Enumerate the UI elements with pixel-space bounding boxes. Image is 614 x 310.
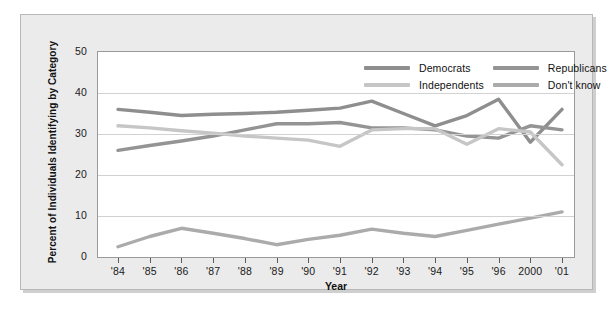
x-tick-mark: [372, 258, 373, 263]
legend-swatch-republicans: [493, 66, 539, 70]
y-tick-label-20: 20: [47, 168, 87, 180]
gridline-40: [98, 93, 574, 94]
x-tick-mark: [150, 258, 151, 263]
x-tick-label-01: '01: [542, 265, 582, 277]
x-tick-mark: [181, 258, 182, 263]
gridline-30: [98, 134, 574, 135]
series-line-democrats: [118, 99, 562, 142]
x-tick-mark: [340, 258, 341, 263]
legend-label-republicans: Republicans: [548, 62, 607, 74]
chart-panel: Percent of Individuals Identifying by Ca…: [20, 14, 593, 290]
x-tick-mark: [403, 258, 404, 263]
series-line-don-t-know: [118, 212, 562, 247]
x-axis-title: Year: [97, 280, 575, 292]
legend-label-independents: Independents: [419, 79, 484, 91]
y-tick-label-0: 0: [47, 250, 87, 262]
legend-swatch-democrats: [364, 66, 410, 70]
plot-area: Democrats Republicans Independents Don't…: [97, 51, 575, 258]
y-axis-title: Percent of Individuals Identifying by Ca…: [47, 37, 58, 267]
y-tick-label-10: 10: [47, 209, 87, 221]
x-tick-mark: [467, 258, 468, 263]
chart-figure: Percent of Individuals Identifying by Ca…: [0, 0, 614, 310]
x-tick-mark: [530, 258, 531, 263]
x-tick-mark: [277, 258, 278, 263]
x-tick-mark: [245, 258, 246, 263]
y-tick-label-50: 50: [47, 45, 87, 57]
x-tick-mark: [213, 258, 214, 263]
x-tick-mark: [499, 258, 500, 263]
series-line-independents: [118, 126, 562, 165]
legend-swatch-dont-know: [493, 83, 539, 87]
y-tick-label-30: 30: [47, 127, 87, 139]
legend-label-dont-know: Don't know: [548, 79, 607, 91]
legend-label-democrats: Democrats: [419, 62, 484, 74]
legend-swatch-independents: [364, 83, 410, 87]
gridline-20: [98, 175, 574, 176]
gridline-10: [98, 216, 574, 217]
x-axis: '84'85'86'87'88'89'90'91'92'93'94'95'962…: [97, 258, 575, 298]
x-tick-mark: [562, 258, 563, 263]
y-tick-label-40: 40: [47, 86, 87, 98]
x-tick-mark: [118, 258, 119, 263]
x-tick-mark: [435, 258, 436, 263]
chart-legend: Democrats Republicans Independents Don't…: [364, 59, 607, 93]
x-tick-mark: [308, 258, 309, 263]
